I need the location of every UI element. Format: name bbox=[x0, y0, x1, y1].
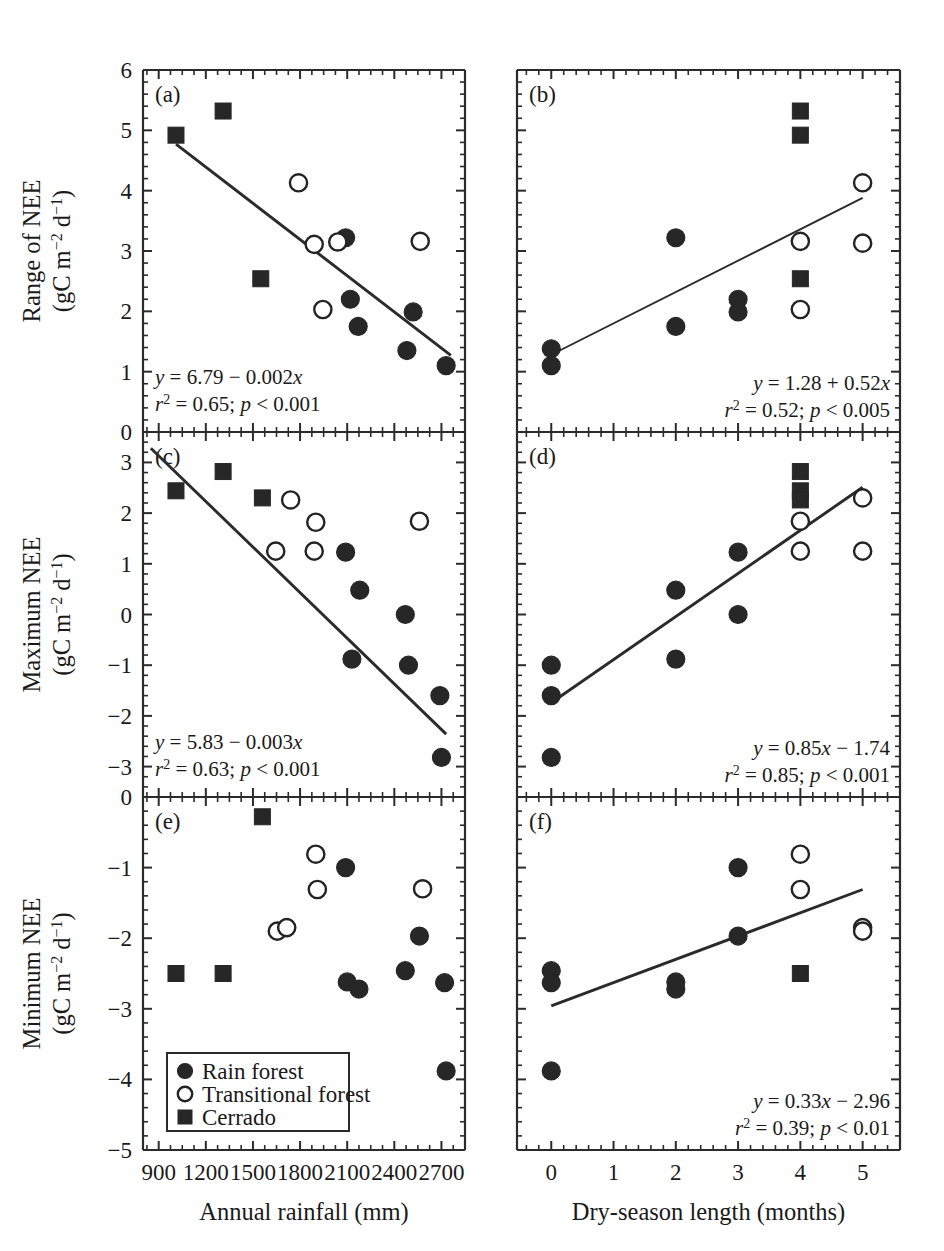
fit-equation-d: y = 0.85x − 1.74 bbox=[751, 736, 890, 760]
y-tick-label: 6 bbox=[121, 58, 133, 83]
y-tick-label: 2 bbox=[121, 501, 133, 526]
point-transitional-forest bbox=[414, 880, 431, 897]
point-transitional-forest bbox=[267, 543, 284, 560]
x-tick-label: 1200 bbox=[183, 1160, 229, 1185]
fit-annotation-f: y = 0.33x − 2.96r2 = 0.39; p < 0.01 bbox=[735, 1089, 890, 1140]
figure-canvas: 6543210(a)y = 6.79 − 0.002xr2 = 0.65; p … bbox=[0, 0, 944, 1251]
point-cerrado bbox=[215, 464, 231, 480]
point-rain-forest bbox=[542, 656, 560, 674]
point-rain-forest bbox=[729, 303, 747, 321]
point-rain-forest bbox=[432, 748, 450, 766]
data-points-c bbox=[168, 464, 450, 767]
y-axis-title-line2: (gC m−2 d−1) bbox=[48, 190, 77, 313]
panel-c: 3210−1−2−3(c)y = 5.83 − 0.003xr2 = 0.63;… bbox=[108, 432, 465, 797]
point-rain-forest bbox=[399, 656, 417, 674]
point-rain-forest bbox=[542, 748, 560, 766]
point-rain-forest bbox=[542, 1062, 560, 1080]
point-cerrado bbox=[792, 103, 808, 119]
point-rain-forest bbox=[351, 581, 369, 599]
x-tick-label: 1800 bbox=[277, 1160, 323, 1185]
point-rain-forest bbox=[410, 927, 428, 945]
y-tick-label: 5 bbox=[121, 118, 133, 143]
x-tick-label: 3 bbox=[732, 1160, 744, 1185]
point-rain-forest bbox=[667, 317, 685, 335]
y-tick-labels-e: 0−1−2−3−4−5 bbox=[108, 785, 133, 1163]
point-rain-forest bbox=[542, 687, 560, 705]
fit-annotation-d: y = 0.85x − 1.74r2 = 0.85; p < 0.001 bbox=[725, 736, 891, 787]
point-transitional-forest bbox=[412, 233, 429, 250]
y-tick-label: 2 bbox=[121, 299, 133, 324]
panel-d: (d)y = 0.85x − 1.74r2 = 0.85; p < 0.001 bbox=[517, 432, 900, 797]
point-transitional-forest bbox=[329, 233, 346, 250]
x-tick-label: 2 bbox=[670, 1160, 682, 1185]
filled-circle-icon bbox=[178, 1064, 193, 1079]
point-rain-forest bbox=[431, 687, 449, 705]
point-rain-forest bbox=[337, 543, 355, 561]
point-rain-forest bbox=[337, 859, 355, 877]
fit-stats-a: r2 = 0.65; p < 0.001 bbox=[155, 392, 320, 417]
point-rain-forest bbox=[667, 650, 685, 668]
point-transitional-forest bbox=[411, 513, 428, 530]
regression-line-f bbox=[551, 889, 862, 1005]
x-tick-label: 5 bbox=[857, 1160, 869, 1185]
point-rain-forest bbox=[667, 581, 685, 599]
data-points-f bbox=[542, 846, 871, 1080]
fit-annotation-b: y = 1.28 + 0.52xr2 = 0.52; p < 0.005 bbox=[725, 371, 891, 422]
x-axis-title: Dry-season length (months) bbox=[572, 1198, 846, 1226]
point-transitional-forest bbox=[854, 174, 871, 191]
y-tick-label: 1 bbox=[121, 552, 133, 577]
y-tick-label: 0 bbox=[121, 420, 133, 445]
x-axis-title: Annual rainfall (mm) bbox=[199, 1198, 409, 1226]
point-transitional-forest bbox=[854, 543, 871, 560]
point-rain-forest bbox=[396, 606, 414, 624]
filled-square-icon bbox=[178, 1110, 192, 1124]
legend: Rain forestTransitional forestCerrado bbox=[167, 1053, 371, 1131]
panel-tag-b: (b) bbox=[529, 82, 556, 107]
x-tick-label: 4 bbox=[795, 1160, 807, 1185]
y-axis-title-line1: Maximum NEE bbox=[18, 537, 45, 693]
panel-tag-f: (f) bbox=[529, 809, 552, 834]
point-transitional-forest bbox=[307, 846, 324, 863]
point-rain-forest bbox=[542, 340, 560, 358]
point-transitional-forest bbox=[309, 881, 326, 898]
x-tick-label: 2700 bbox=[418, 1160, 464, 1185]
y-axis-title-row2: Maximum NEE(gC m−2 d−1) bbox=[18, 537, 76, 693]
y-tick-label: −3 bbox=[108, 997, 132, 1022]
figure-root: 6543210(a)y = 6.79 − 0.002xr2 = 0.65; p … bbox=[0, 0, 944, 1251]
point-rain-forest bbox=[729, 927, 747, 945]
point-cerrado bbox=[792, 271, 808, 287]
point-transitional-forest bbox=[854, 489, 871, 506]
fit-stats-d: r2 = 0.85; p < 0.001 bbox=[725, 763, 890, 788]
fit-stats-c: r2 = 0.63; p < 0.001 bbox=[155, 757, 320, 782]
fit-equation-b: y = 1.28 + 0.52x bbox=[751, 371, 891, 395]
point-transitional-forest bbox=[792, 233, 809, 250]
point-rain-forest bbox=[396, 962, 414, 980]
panel-b: (b)y = 1.28 + 0.52xr2 = 0.52; p < 0.005 bbox=[517, 70, 900, 432]
y-tick-labels-a: 6543210 bbox=[121, 58, 133, 445]
point-rain-forest bbox=[667, 980, 685, 998]
y-tick-label: 4 bbox=[121, 179, 133, 204]
open-circle-icon bbox=[178, 1087, 192, 1101]
y-tick-label: 3 bbox=[121, 450, 133, 475]
legend-item-1[interactable]: Transitional forest bbox=[178, 1082, 371, 1107]
y-axis-title-line1: Minimum NEE bbox=[18, 898, 45, 1050]
y-tick-label: −5 bbox=[108, 1138, 132, 1163]
point-cerrado bbox=[792, 464, 808, 480]
point-cerrado bbox=[254, 809, 270, 825]
point-transitional-forest bbox=[290, 174, 307, 191]
panel-tag-d: (d) bbox=[529, 444, 556, 469]
data-points-e bbox=[168, 809, 455, 1080]
point-rain-forest bbox=[667, 229, 685, 247]
fit-equation-a: y = 6.79 − 0.002x bbox=[153, 365, 303, 389]
point-rain-forest bbox=[349, 317, 367, 335]
regression-line-b bbox=[551, 198, 862, 355]
point-rain-forest bbox=[341, 290, 359, 308]
y-tick-label: 1 bbox=[121, 360, 133, 385]
x-tick-label: 0 bbox=[546, 1160, 558, 1185]
data-points-a bbox=[168, 103, 455, 375]
point-transitional-forest bbox=[282, 491, 299, 508]
y-tick-label: −2 bbox=[108, 926, 132, 951]
point-rain-forest bbox=[729, 543, 747, 561]
y-axis-title-line1: Range of NEE bbox=[18, 180, 45, 323]
x-tick-labels-f: 012345Dry-season length (months) bbox=[546, 1160, 869, 1226]
